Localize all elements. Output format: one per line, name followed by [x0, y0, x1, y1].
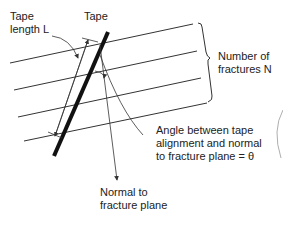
tape-length-leader [52, 36, 78, 58]
number-of-fractures-label: Number of fractures N [218, 50, 272, 76]
tape-length-label: Tape length L [10, 10, 49, 36]
tape-bar [54, 32, 108, 156]
tape-label: Tape [84, 10, 108, 23]
normal-label: Normal to fracture plane [100, 186, 167, 212]
normal-line [100, 45, 117, 180]
bracket [198, 23, 212, 102]
fracture-line-2 [14, 51, 197, 90]
edge-arc [277, 110, 283, 158]
angle-label: Angle between tape alignment and normal … [156, 124, 262, 163]
fracture-line-3 [18, 78, 201, 117]
